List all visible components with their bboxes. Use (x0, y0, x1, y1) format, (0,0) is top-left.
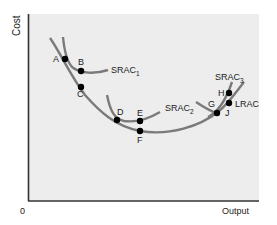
label-c: C (77, 89, 84, 99)
label-j: J (225, 108, 230, 118)
point-d (114, 117, 120, 123)
label-e: E (137, 108, 143, 118)
point-f (137, 128, 143, 134)
y-axis-label: Cost (11, 15, 22, 36)
point-b (78, 68, 84, 74)
x-axis-label: Output (222, 206, 250, 216)
point-j (226, 100, 232, 106)
label-f: F (137, 135, 143, 145)
cost-curves-diagram: Cost 0 Output A B C D E F G H J SRAC1 SR… (0, 0, 277, 225)
label-a: A (53, 54, 59, 64)
label-h: H (218, 88, 225, 98)
point-e (137, 118, 143, 124)
label-g: G (208, 99, 215, 109)
point-h (226, 90, 232, 96)
label-lrac: LRAC (235, 99, 260, 109)
point-a (62, 56, 68, 62)
label-d: D (117, 107, 124, 117)
label-b: B (78, 57, 84, 67)
origin-label: 0 (20, 206, 25, 216)
point-g (214, 110, 220, 116)
